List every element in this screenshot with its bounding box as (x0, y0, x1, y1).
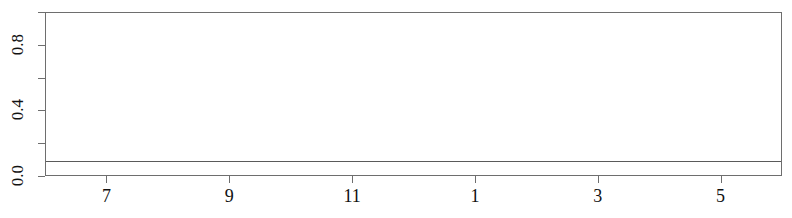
x-tick-label-3: 3 (578, 186, 618, 206)
plot-title (0, 0, 792, 1)
y-tick-2 (38, 110, 45, 111)
y-tick-5 (38, 12, 45, 13)
series-line-2 (270, 175, 761, 176)
y-tick-label-0-8: 0.8 (9, 27, 26, 61)
y-tick-label-0-4: 0.4 (9, 93, 26, 127)
x-tick-0 (106, 176, 107, 183)
x-tick-1 (229, 176, 230, 183)
y-tick-3 (38, 78, 45, 79)
x-tick-label-5: 5 (701, 186, 741, 206)
y-tick-0 (38, 176, 45, 177)
figure-canvas: 0.00.40.8 7911135 (0, 0, 792, 218)
plot-panel (45, 12, 782, 176)
y-tick-4 (38, 45, 45, 46)
y-tick-1 (38, 143, 45, 144)
x-tick-2 (352, 176, 353, 183)
x-tick-label-7: 7 (86, 186, 126, 206)
x-tick-label-1: 1 (455, 186, 495, 206)
y-tick-label-0-0: 0.0 (9, 159, 26, 193)
x-tick-4 (598, 176, 599, 183)
series-line-1 (46, 161, 782, 162)
x-tick-label-9: 9 (209, 186, 249, 206)
x-tick-3 (475, 176, 476, 183)
x-tick-5 (721, 176, 722, 183)
x-tick-label-11: 11 (332, 186, 372, 206)
